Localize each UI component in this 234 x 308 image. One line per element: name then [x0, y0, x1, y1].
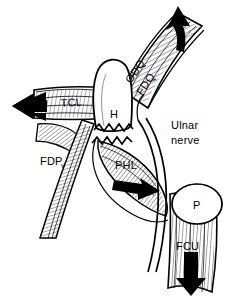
label-ulnar-nerve-line1: Ulnar: [171, 119, 198, 131]
label-fcu: FCU: [176, 240, 199, 252]
hamate-hook-body: [93, 60, 132, 132]
label-pisiform: P: [193, 199, 201, 211]
label-hamate: H: [110, 108, 118, 120]
anatomical-figure: TCL ODQ FDQ H FDP v PHL Ulnar nerve P FC…: [0, 0, 234, 308]
label-fdp-subscript: v: [61, 161, 65, 170]
hamate-hook-diagram: TCL ODQ FDQ H FDP v PHL Ulnar nerve P FC…: [0, 0, 234, 308]
label-fdp: FDP v: [40, 155, 65, 170]
label-ulnar-nerve-line2: nerve: [171, 134, 200, 146]
phl-band: [93, 136, 176, 222]
tcl-traction-arrow: [12, 92, 47, 121]
label-tcl: TCL: [60, 96, 82, 109]
label-fdp-text: FDP: [40, 155, 63, 167]
label-phl: PHL: [115, 159, 137, 171]
